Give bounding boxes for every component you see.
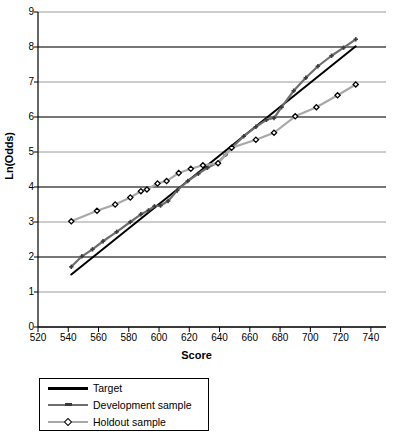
x-axis-ticks: 520540560580600620640660680700720740 — [0, 332, 393, 346]
x-tick-label: 560 — [82, 332, 116, 343]
x-tick-label: 720 — [324, 332, 358, 343]
legend-swatch-holdout-sample — [46, 416, 90, 428]
x-tick-label: 600 — [142, 332, 176, 343]
x-tick-label: 640 — [203, 332, 237, 343]
legend-item-target: Target — [40, 379, 208, 396]
series-target — [71, 46, 355, 274]
legend-label-holdout-sample: Holdout sample — [90, 416, 166, 428]
legend-label-development-sample: Development sample — [90, 399, 192, 411]
x-tick-label: 520 — [21, 332, 55, 343]
legend-swatch-target — [46, 382, 90, 394]
legend-item-holdout-sample: Holdout sample — [40, 413, 208, 430]
series-holdout-sample — [69, 82, 359, 224]
x-tick-label: 700 — [293, 332, 327, 343]
x-tick-label: 540 — [51, 332, 85, 343]
chart-figure: Ln(Odds) 0123456789 52054056058060062064… — [0, 0, 393, 436]
x-tick-label: 580 — [112, 332, 146, 343]
x-tick-label: 660 — [233, 332, 267, 343]
x-axis-title: Score — [0, 349, 393, 361]
x-tick-label: 620 — [172, 332, 206, 343]
series-development-sample — [69, 37, 358, 269]
data-marker — [188, 166, 193, 171]
legend-label-target: Target — [90, 382, 122, 394]
x-tick-label: 740 — [354, 332, 388, 343]
x-tick-label: 680 — [263, 332, 297, 343]
chart-canvas — [0, 0, 393, 372]
plot-area: Ln(Odds) 0123456789 52054056058060062064… — [0, 0, 393, 372]
series-line — [71, 84, 355, 221]
series-line — [71, 39, 355, 266]
chart-legend: Target Development sample Holdout sample — [39, 378, 209, 431]
series-line — [71, 46, 355, 274]
legend-item-development-sample: Development sample — [40, 396, 208, 413]
legend-swatch-development-sample — [46, 399, 90, 411]
